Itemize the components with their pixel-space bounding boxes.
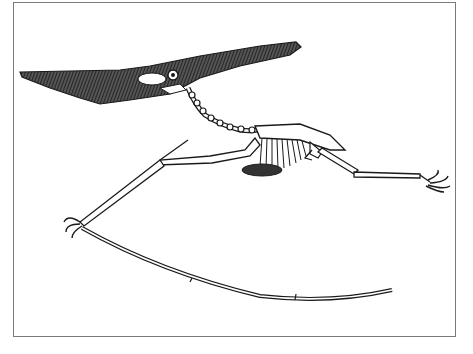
wing-arm xyxy=(64,138,260,238)
skull-fenestra xyxy=(138,73,166,85)
skull xyxy=(20,42,301,104)
pteranodon-skeleton-illustration xyxy=(0,0,473,354)
hind-limb xyxy=(305,148,450,192)
sternum xyxy=(242,164,282,176)
neck-vertebrae xyxy=(188,88,265,133)
wing-finger xyxy=(82,228,392,300)
ribcage xyxy=(255,124,345,169)
